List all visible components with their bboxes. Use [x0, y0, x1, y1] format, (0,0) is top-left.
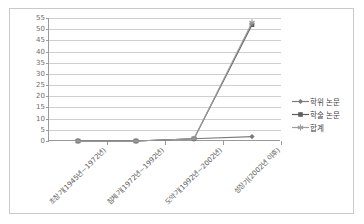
y-axis-tick-label: 30: [36, 70, 45, 77]
y-axis-tick-label: 25: [36, 82, 45, 89]
y-axis-tick-mark: [46, 141, 49, 142]
legend-item[interactable]: 학위 논문: [292, 95, 354, 108]
y-axis-tick-label: 40: [36, 48, 45, 55]
y-axis-tick-label: 20: [36, 93, 45, 100]
series-layer: [49, 18, 281, 141]
chart-frame: 5550454035302520151050 초창기(1945년~1972년)침…: [9, 8, 354, 214]
x-axis-tick-mark: [107, 141, 108, 145]
legend-marker-icon: [292, 109, 309, 120]
series-3: [75, 19, 254, 144]
y-axis-tick-label: 55: [36, 15, 45, 22]
series-line: [78, 22, 252, 141]
data-point-marker: [249, 134, 254, 139]
x-axis-tick-mark: [281, 141, 282, 145]
x-axis-label: 도약기(1992년~2002년): [165, 147, 224, 206]
legend-label: 학술 논문: [309, 109, 340, 120]
legend-item[interactable]: 합계: [292, 121, 354, 134]
y-axis-tick-label: 5: [41, 126, 45, 133]
y-axis-tick-label: 0: [41, 138, 45, 145]
y-axis-tick-label: 50: [36, 26, 45, 33]
x-axis-tick-mark: [165, 141, 166, 145]
legend-item[interactable]: 학술 논문: [292, 108, 354, 121]
legend-label: 합계: [309, 122, 324, 133]
legend-label: 학위 논문: [309, 96, 340, 107]
x-axis-label: 초창기(1945년~1972년): [49, 147, 108, 206]
y-axis-tick-label: 15: [36, 104, 45, 111]
legend-marker-icon: [292, 122, 309, 133]
x-axis-tick-mark: [223, 141, 224, 145]
y-axis-tick-label: 45: [36, 37, 45, 44]
x-axis-label: 성장기(2002년 이후): [234, 147, 282, 195]
y-axis-tick-label: 35: [36, 59, 45, 66]
series-2: [76, 22, 255, 143]
y-axis-tick-label: 10: [36, 115, 45, 122]
legend-marker-icon: [292, 96, 309, 107]
chart-legend: 학위 논문학술 논문합계: [292, 95, 354, 134]
series-line: [78, 25, 252, 141]
plot-area: 5550454035302520151050: [48, 18, 280, 141]
x-axis-label: 침체기(1972년~1992년): [107, 147, 166, 206]
